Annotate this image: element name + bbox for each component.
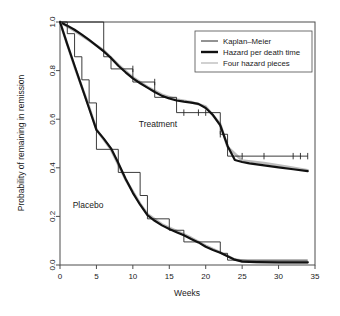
y-tick-label: 0.2	[48, 210, 57, 222]
x-tick-label: 20	[201, 272, 210, 281]
y-tick-label: 0.6	[48, 113, 57, 125]
x-axis-ticks: 05101520253035	[58, 265, 320, 281]
x-tick-label: 5	[94, 272, 99, 281]
y-tick-label: 0.4	[48, 162, 57, 174]
x-axis-title: Weeks	[174, 288, 200, 298]
y-axis-ticks: 0.00.20.40.60.81.0	[48, 16, 60, 271]
legend-label-four-hazard-pieces: Four hazard pieces	[223, 59, 290, 68]
legend-label-kaplan-meier: Kaplan–Meier	[223, 37, 272, 46]
placebo-label: Placebo	[73, 200, 104, 210]
legend: Kaplan–Meier Hazard per death time Four …	[195, 31, 312, 72]
x-tick-label: 30	[274, 272, 283, 281]
x-tick-label: 0	[58, 272, 63, 281]
y-tick-label: 1.0	[48, 16, 57, 28]
survival-plot: 05101520253035 0.00.20.40.60.81.0 Weeks …	[0, 0, 340, 316]
y-tick-label: 0.0	[48, 259, 57, 271]
x-tick-label: 25	[238, 272, 247, 281]
y-axis-title: Probability of remaining in remission	[16, 74, 26, 211]
x-tick-label: 10	[128, 272, 137, 281]
treatment-label: Treatment	[139, 119, 178, 129]
x-tick-label: 15	[165, 272, 174, 281]
x-tick-label: 35	[311, 272, 320, 281]
kaplan-meier-figure: 05101520253035 0.00.20.40.60.81.0 Weeks …	[0, 0, 340, 316]
legend-label-hazard-per-death-time: Hazard per death time	[223, 48, 300, 57]
y-tick-label: 0.8	[48, 64, 57, 76]
